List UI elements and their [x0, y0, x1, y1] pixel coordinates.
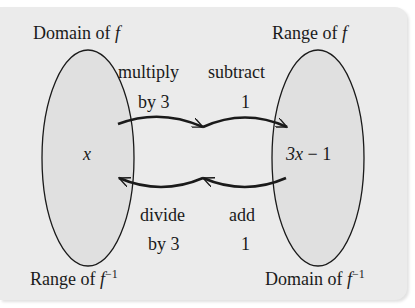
range-of-f-label: Range of f: [272, 24, 347, 42]
step-subtract-line2: 1: [241, 93, 250, 111]
step-multiply-line1: multiply: [118, 63, 179, 81]
domain-of-f-label: Domain of f: [33, 24, 120, 42]
step-divide-line2: by 3: [148, 235, 180, 253]
step-add-line2: 1: [241, 235, 250, 253]
step-multiply-line2: by 3: [138, 93, 170, 111]
function-inverse-diagram: [0, 0, 415, 308]
right-set-element: 3x − 1: [286, 145, 331, 163]
left-set-element: x: [83, 145, 91, 163]
step-subtract-line1: subtract: [208, 63, 265, 81]
step-add-line1: add: [229, 206, 255, 224]
domain-of-f-inverse-label: Domain of f−1: [265, 270, 365, 288]
range-of-f-inverse-label: Range of f−1: [30, 270, 118, 288]
step-divide-line1: divide: [140, 206, 185, 224]
